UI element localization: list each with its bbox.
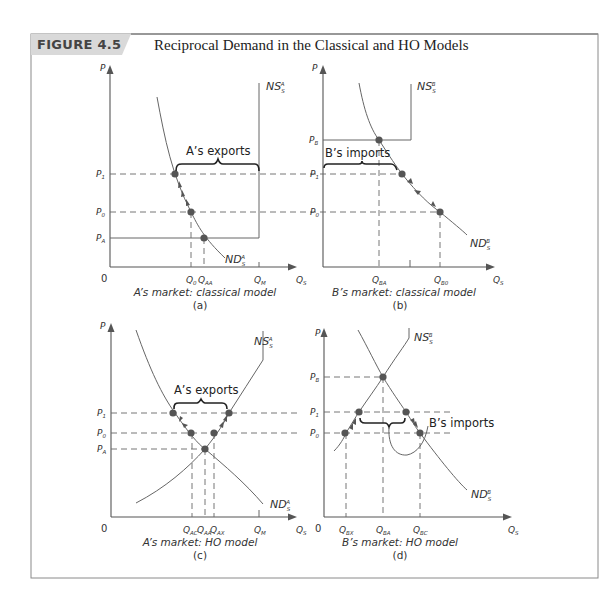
point-p0 — [436, 208, 443, 215]
price-label-pA: PA — [96, 233, 105, 244]
y-axis-arrow-icon — [107, 65, 114, 74]
price-label-p1: P1 — [310, 169, 319, 180]
imports-brace — [324, 161, 397, 170]
panel-caption: B’s market: classical model — [332, 286, 476, 298]
x-axis-arrow-icon — [288, 264, 297, 271]
x-axis-label: QS — [493, 275, 504, 286]
exports-annotation: A’s exports — [186, 144, 250, 158]
panel-letter: (c) — [193, 549, 207, 561]
price-label-p0: P0 — [310, 207, 319, 218]
y-axis-label: P — [312, 63, 318, 73]
point-supply-p1 — [225, 409, 232, 416]
ns-label: NSSA — [266, 80, 285, 94]
nd-label: NDSB — [471, 488, 492, 502]
panel-letter: (b) — [393, 299, 408, 311]
exports-brace — [174, 399, 227, 409]
nd-demand-curve — [136, 330, 263, 504]
nd-label: NDSA — [270, 498, 291, 512]
figure-badge: FIGURE 4.5 — [37, 37, 121, 52]
price-label-pA: PA — [97, 444, 106, 455]
x-axis-label: QS — [508, 525, 519, 536]
arrow-up-icon — [186, 199, 190, 206]
panel-caption: A’s market: classical model — [133, 286, 277, 298]
price-label-p1: P1 — [97, 408, 106, 419]
arrow-icon — [223, 415, 227, 422]
nd-demand-curve — [358, 330, 467, 490]
price-label-pB: PB — [310, 372, 319, 383]
panel-a: P QS 0 A’s exports P1 P0 PA Q0 QAA QM — [96, 63, 307, 311]
point-p1 — [398, 170, 405, 177]
nd-label: NDSA — [225, 253, 246, 267]
point-demand-p0 — [416, 429, 423, 436]
price-label-p0: P0 — [97, 428, 106, 439]
price-label-pB: PB — [309, 135, 318, 146]
x-axis-label: QS — [296, 525, 307, 536]
panel-letter: (d) — [393, 549, 408, 561]
point-demand-p1 — [169, 409, 176, 416]
figure-frame — [31, 34, 598, 578]
origin-label: 0 — [101, 523, 107, 534]
figure-title: Reciprocal Demand in the Classical and H… — [154, 37, 469, 53]
point-pB — [375, 136, 382, 143]
y-axis-arrow-icon — [108, 323, 115, 332]
imports-brace — [360, 418, 405, 427]
qty-label-qM: QM — [254, 525, 266, 536]
y-axis-label: P — [100, 63, 106, 73]
x-axis-arrow-icon — [288, 514, 297, 521]
ns-supply-curve — [136, 331, 263, 503]
qty-label-qBX: QBX — [339, 525, 354, 536]
qty-label-qAA: QAA — [198, 275, 213, 286]
qty-label-qM: QM — [254, 275, 266, 286]
qty-label-qB0: QB0 — [434, 275, 449, 286]
origin-label: 0 — [315, 523, 321, 534]
panel-c: P QS 0 A’s exports P1 P0 PA QAC QAA QAX … — [97, 321, 307, 561]
qty-label-qBC: QBC — [413, 525, 428, 536]
y-axis-label: P — [100, 321, 106, 331]
imports-annotation: B’s imports — [325, 146, 390, 160]
x-axis-label: QS — [296, 275, 307, 286]
point-demand-p1 — [402, 408, 409, 415]
figure-header: FIGURE 4.5 Reciprocal Demand in the Clas… — [31, 34, 598, 578]
ns-label: NSSA — [254, 335, 273, 349]
price-label-p1: P1 — [96, 169, 105, 180]
arrow-icon — [219, 421, 224, 428]
exports-brace — [176, 159, 259, 171]
point-pA — [200, 234, 207, 241]
nd-label: NDSB — [470, 237, 491, 251]
y-axis-arrow-icon — [321, 328, 328, 337]
figure-4-5: FIGURE 4.5 Reciprocal Demand in the Clas… — [0, 0, 610, 599]
point-pB — [379, 373, 386, 380]
point-supply-p0 — [210, 429, 217, 436]
ns-label: NSSB — [417, 80, 436, 94]
panel-b: P QS B’s imports PB P1 P0 QBA QB0 NSSB N… — [300, 63, 504, 311]
qty-label-qBA: QBA — [372, 275, 387, 286]
arrow-icon — [182, 423, 188, 428]
imports-annotation: B’s imports — [429, 416, 494, 430]
panel-letter: (a) — [193, 299, 208, 311]
point-supply-p0 — [341, 429, 348, 436]
panel-caption: B’s market: HO model — [342, 536, 458, 548]
arrow-up-icon — [178, 181, 182, 188]
y-axis-arrow-icon — [320, 65, 327, 74]
point-pA — [201, 445, 208, 452]
x-axis-arrow-icon — [503, 514, 512, 521]
qty-label-q0: Q0 — [186, 275, 197, 286]
ns-label: NSSB — [414, 331, 433, 345]
qty-label-qAX: QAX — [210, 525, 225, 536]
point-p0 — [187, 208, 194, 215]
x-axis-arrow-icon — [486, 264, 495, 271]
point-supply-p1 — [355, 408, 362, 415]
origin-label: 0 — [101, 273, 107, 284]
point-demand-p0 — [187, 429, 194, 436]
point-p1 — [171, 170, 178, 177]
panel-d: P QS 0 B’s imports PB P1 P0 QBX QBA QBC — [310, 328, 519, 561]
price-label-p0: P0 — [310, 428, 319, 439]
panel-caption: A’s market: HO model — [142, 536, 258, 548]
qty-label-qBA: QBA — [376, 525, 391, 536]
price-label-p1: P1 — [310, 407, 319, 418]
qty-label-qAC: QAC — [183, 525, 198, 536]
price-label-p0: P0 — [96, 207, 105, 218]
y-axis-label: P — [315, 328, 321, 338]
exports-annotation: A’s exports — [174, 383, 238, 397]
